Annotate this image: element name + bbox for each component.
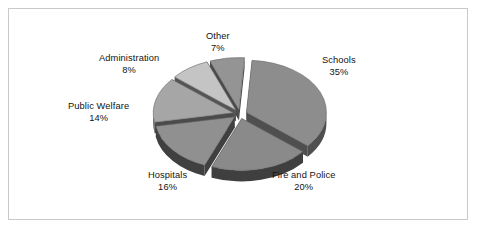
slice-label-schools: Schools35%: [322, 55, 356, 78]
slice-label-name: Administration: [99, 53, 159, 65]
pie-chart-figure: Schools35%Fire and Police20%Hospitals16%…: [0, 0, 478, 230]
slice-label-name: Schools: [322, 55, 356, 67]
slice-label-public-welfare: Public Welfare14%: [68, 101, 129, 124]
slice-label-administration: Administration8%: [99, 53, 159, 76]
slice-label-value: 20%: [272, 182, 336, 194]
slice-label-value: 7%: [206, 43, 230, 55]
slice-label-other: Other7%: [206, 31, 230, 54]
slice-label-value: 16%: [148, 182, 187, 194]
slice-label-name: Fire and Police: [272, 170, 336, 182]
slice-label-value: 8%: [99, 65, 159, 77]
slice-label-name: Hospitals: [148, 170, 187, 182]
slice-label-name: Public Welfare: [68, 101, 129, 113]
slice-label-hospitals: Hospitals16%: [148, 170, 187, 193]
pie-slice-tops: [153, 58, 326, 171]
slice-label-value: 35%: [322, 67, 356, 79]
slice-label-fire-and-police: Fire and Police20%: [272, 170, 336, 193]
slice-label-name: Other: [206, 31, 230, 43]
slice-label-value: 14%: [68, 113, 129, 125]
